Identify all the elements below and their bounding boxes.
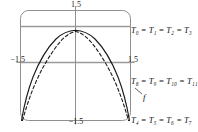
f-label-leader-line xyxy=(135,88,142,94)
plot-canvas xyxy=(0,0,198,132)
axis-label-bottom: −1.5 xyxy=(62,118,90,126)
annotation-bottom-nodes: T₄ = T₅ = T₆ = T₇ xyxy=(131,116,192,125)
annotation-top-nodes-text: T₀ = T₁ = T₂ = T₃ xyxy=(131,25,192,35)
axis-label-top: 1.5 xyxy=(62,1,90,9)
axis-label-left: −1.5 xyxy=(1,56,25,64)
annotation-top-nodes: T₀ = T₁ = T₂ = T₃ xyxy=(131,26,192,35)
annotation-mid-nodes: T₈ = T₉ = T₁₀ = T₁₁ xyxy=(131,77,198,86)
figure-container: 1.5 −1.5 1.5 −1.5 T₀ = T₁ = T₂ = T₃ T₈ =… xyxy=(0,0,198,132)
annotation-function-f: f xyxy=(143,93,146,102)
axis-label-right: 1.5 xyxy=(128,56,138,64)
annotation-bottom-nodes-text: T₄ = T₅ = T₆ = T₇ xyxy=(131,115,192,125)
annotation-mid-nodes-text: T₈ = T₉ = T₁₀ = T₁₁ xyxy=(131,76,198,86)
